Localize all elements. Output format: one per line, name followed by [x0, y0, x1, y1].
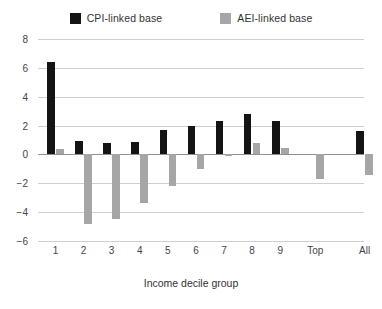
bar	[272, 121, 280, 154]
legend-swatch-aei-icon	[220, 13, 231, 24]
legend-label-cpi: CPI-linked base	[87, 12, 163, 24]
chart-legend: CPI-linked base AEI-linked base	[0, 8, 382, 28]
bar	[169, 154, 177, 186]
bar	[75, 141, 83, 154]
y-tick-label-4: 4	[22, 91, 28, 102]
legend-item-aei-linked-base: AEI-linked base	[220, 12, 312, 24]
y-axis-labels: 86420−2−4−6	[0, 39, 34, 241]
bar	[316, 154, 324, 179]
gridline--6	[38, 241, 364, 242]
x-axis-title: Income decile group	[0, 277, 382, 289]
y-tick-label-8: 8	[22, 34, 28, 45]
bar-chart: CPI-linked base AEI-linked base 86420−2−…	[0, 0, 382, 309]
bar	[197, 154, 205, 168]
bar	[112, 154, 120, 219]
x-tick-label-8: 8	[249, 245, 255, 256]
bar	[281, 148, 289, 154]
x-tick-label-all: All	[359, 245, 370, 256]
legend-swatch-cpi-icon	[70, 13, 81, 24]
bar	[56, 149, 64, 154]
x-tick-label-2: 2	[81, 245, 87, 256]
x-tick-label-4: 4	[137, 245, 143, 256]
bar	[356, 131, 364, 154]
x-tick-label-7: 7	[221, 245, 227, 256]
x-tick-label-6: 6	[193, 245, 199, 256]
x-tick-label-9: 9	[277, 245, 283, 256]
bar	[225, 154, 233, 155]
bar	[216, 121, 224, 154]
legend-item-cpi-linked-base: CPI-linked base	[70, 12, 163, 24]
bar	[253, 143, 261, 155]
plot-area	[38, 39, 364, 241]
y-tick-label--4: −4	[17, 207, 28, 218]
y-tick-label--6: −6	[17, 236, 28, 247]
y-tick-label-2: 2	[22, 120, 28, 131]
x-tick-label-3: 3	[109, 245, 115, 256]
bar	[103, 143, 111, 155]
bar	[188, 126, 196, 155]
bar-groups	[38, 39, 364, 241]
bar	[47, 62, 55, 154]
legend-label-aei: AEI-linked base	[237, 12, 312, 24]
x-tick-label-1: 1	[53, 245, 59, 256]
y-tick-label--2: −2	[17, 178, 28, 189]
bar	[244, 114, 252, 154]
y-tick-label-0: 0	[22, 149, 28, 160]
bar	[160, 130, 168, 155]
y-tick-label-6: 6	[22, 62, 28, 73]
bar	[84, 154, 92, 223]
bar	[140, 154, 148, 203]
bar	[365, 154, 373, 175]
bar	[131, 142, 139, 154]
x-tick-label-5: 5	[165, 245, 171, 256]
x-tick-label-top: Top	[307, 245, 323, 256]
x-axis-labels: 123456789TopAll	[38, 245, 364, 261]
